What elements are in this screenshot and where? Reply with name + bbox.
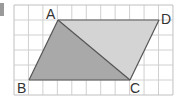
vertex-label-d: D bbox=[161, 12, 171, 26]
vertex-label-c: C bbox=[130, 81, 140, 95]
vertex-label-a: A bbox=[46, 7, 55, 21]
grid-diagram bbox=[0, 0, 179, 105]
vertex-label-b: B bbox=[17, 81, 26, 95]
